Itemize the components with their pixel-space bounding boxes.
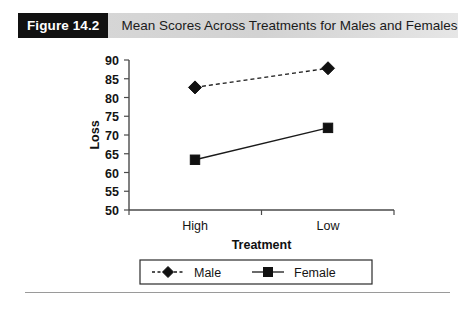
x-tick-label-high: High [182,219,208,233]
y-tick-label: 65 [105,148,119,162]
y-axis-ticks [124,60,129,210]
chart-legend: Male Female [140,260,372,284]
y-tick-label: 90 [105,54,119,68]
y-tick-label: 80 [105,92,119,106]
x-axis-ticks [129,210,394,215]
legend-label-male: Male [194,266,221,280]
data-point-female-low[interactable] [323,123,332,132]
legend-label-female: Female [294,266,336,280]
y-tick-label: 55 [105,185,119,199]
y-tick-label: 85 [105,73,119,87]
data-point-female-high[interactable] [190,155,199,164]
data-point-male-low[interactable] [322,62,335,75]
y-tick-label: 50 [105,204,119,218]
bottom-divider [25,292,450,293]
y-tick-label: 70 [105,129,119,143]
figure-number-badge: Figure 14.2 [18,13,108,38]
x-tick-label-low: Low [317,219,341,233]
chart-container: 90 85 80 75 70 65 60 55 50 Loss High Low… [0,44,472,290]
y-axis-tick-labels: 90 85 80 75 70 65 60 55 50 [105,54,119,218]
figure-header-banner: Figure 14.2 Mean Scores Across Treatment… [18,13,458,38]
legend-square-marker-icon [264,268,273,277]
y-tick-label: 60 [105,167,119,181]
line-chart: 90 85 80 75 70 65 60 55 50 Loss High Low… [0,44,472,290]
y-axis-title: Loss [88,120,102,149]
x-axis-title: Treatment [232,238,293,252]
series-line-female [195,128,328,160]
data-point-male-high[interactable] [189,81,202,94]
figure-title: Mean Scores Across Treatments for Males … [108,13,457,38]
y-tick-label: 75 [105,110,119,124]
series-line-male [195,68,328,87]
